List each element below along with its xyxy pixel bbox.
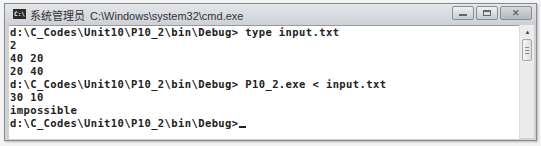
console-prompt-line[interactable]: d:\C_Codes\Unit10\P10_2\bin\Debug>: [9, 117, 519, 130]
minimize-button[interactable]: [452, 6, 474, 20]
grip-icon: [525, 50, 529, 51]
title-bar[interactable]: C:\ 系统管理员C:\Windows\system32\cmd.exe ✕: [5, 4, 536, 25]
text-cursor: [239, 126, 246, 128]
window-title-user: 系统管理员: [30, 10, 85, 22]
console-output[interactable]: d:\C_Codes\Unit10\P10_2\bin\Debug> type …: [9, 25, 519, 139]
grip-icon: [525, 47, 529, 48]
scrollbar-thumb[interactable]: [522, 39, 532, 61]
close-icon: ✕: [512, 8, 520, 18]
cmd-app-icon[interactable]: C:\: [13, 9, 26, 19]
console-line: 20 40: [9, 65, 519, 78]
close-button[interactable]: ✕: [500, 6, 532, 20]
grip-icon: [525, 53, 529, 54]
console-line: d:\C_Codes\Unit10\P10_2\bin\Debug> type …: [9, 26, 519, 39]
console-line: d:\C_Codes\Unit10\P10_2\bin\Debug> P10_2…: [9, 78, 519, 91]
console-prompt: d:\C_Codes\Unit10\P10_2\bin\Debug>: [10, 117, 239, 129]
scroll-up-arrow-icon[interactable]: ▲: [520, 27, 535, 37]
console-line: 2: [9, 39, 519, 52]
console-line: 40 20: [9, 52, 519, 65]
console-line: 30 10: [9, 91, 519, 104]
window-title: 系统管理员C:\Windows\system32\cmd.exe: [30, 7, 243, 23]
console-line: impossible: [9, 104, 519, 117]
window-title-path: C:\Windows\system32\cmd.exe: [90, 10, 243, 22]
maximize-icon: [483, 10, 491, 16]
minimize-icon: [459, 14, 467, 16]
vertical-scrollbar[interactable]: ▲: [519, 25, 534, 138]
maximize-button[interactable]: [476, 6, 498, 20]
cmd-window: C:\ 系统管理员C:\Windows\system32\cmd.exe ✕ d…: [4, 3, 537, 141]
window-controls: ✕: [452, 6, 532, 20]
